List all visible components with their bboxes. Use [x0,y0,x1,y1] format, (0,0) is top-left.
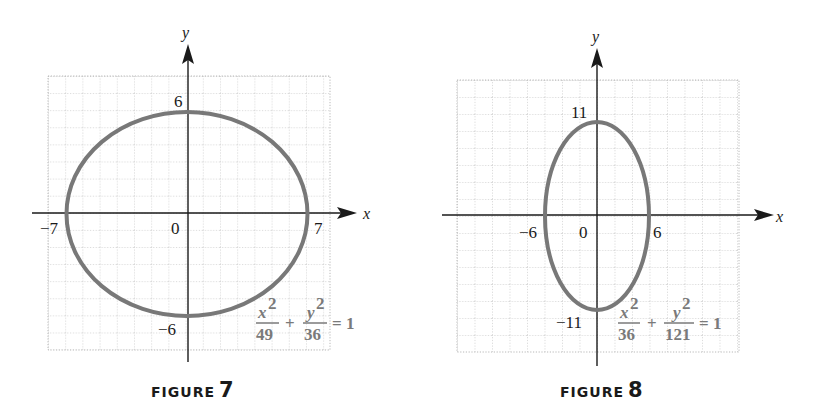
svg-text:36: 36 [618,325,635,344]
label-x-neg: −7 [40,219,59,238]
y-axis-label: y [180,24,190,42]
caption-number: 7 [219,378,235,402]
svg-text:2: 2 [268,294,277,313]
figure-7-caption: FIGURE7 [151,378,235,402]
svg-text:+: + [647,314,657,333]
x-axis-label: x [775,208,783,225]
label-y-neg: −11 [556,313,582,332]
figure-7: y x 6 −7 0 7 −6 x 2 49 + y 2 36 = 1 FIGU… [0,0,400,411]
svg-text:x: x [619,303,629,322]
svg-text:2: 2 [630,294,639,313]
svg-text:x: x [257,303,267,322]
svg-text:y: y [305,303,315,322]
figure-8: y x 11 −6 0 6 −11 x 2 36 + y 2 121 = 1 F… [410,0,817,411]
caption-number: 8 [628,378,644,402]
svg-text:49: 49 [256,325,273,344]
svg-text:+: + [285,314,295,333]
svg-text:2: 2 [316,294,325,313]
svg-text:36: 36 [304,325,321,344]
caption-word: FIGURE [560,384,624,400]
label-y-pos: 11 [571,103,587,122]
caption-word: FIGURE [151,384,215,400]
label-y-pos: 6 [174,92,183,111]
svg-text:= 1: = 1 [699,314,721,333]
svg-text:2: 2 [682,294,691,313]
label-y-neg: −6 [158,320,176,339]
svg-text:y: y [671,303,681,322]
figure-8-caption: FIGURE8 [560,378,644,402]
svg-text:121: 121 [665,325,691,344]
label-x-pos: 6 [653,223,662,242]
figure-7-plot: y x 6 −7 0 7 −6 x 2 49 + y 2 36 = 1 [0,0,400,411]
x-axis-label: x [362,205,370,222]
svg-text:= 1: = 1 [332,314,354,333]
label-origin: 0 [171,219,180,238]
y-axis-label: y [590,28,600,46]
figure-8-plot: y x 11 −6 0 6 −11 x 2 36 + y 2 121 = 1 [410,0,817,411]
label-x-neg: −6 [519,223,537,242]
label-origin: 0 [579,223,588,242]
label-x-pos: 7 [314,219,323,238]
